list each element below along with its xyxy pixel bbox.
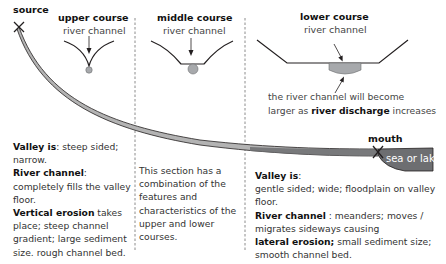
upper-channel-label: river channel <box>63 25 126 36</box>
lower-channel-term: River channel <box>255 210 326 221</box>
upper-course-description: Valley is: steep sided; narrow. River ch… <box>13 140 135 259</box>
lower-discharge-note: the river channel will become larger as … <box>268 90 436 117</box>
upper-erosion-term: Vertical erosion <box>13 207 94 218</box>
lower-valley-cross-section <box>257 40 408 63</box>
middle-channel-icon <box>188 64 198 74</box>
lower-channel-icon <box>329 63 361 74</box>
lower-course-description: Valley is: gentle sided; wide; floodplai… <box>255 169 445 261</box>
lower-note-pre: larger as <box>268 105 311 116</box>
middle-course-title: middle course <box>157 12 232 23</box>
lower-valley-colon: : <box>298 170 301 181</box>
middle-channel-label: river channel <box>163 25 226 36</box>
mouth-label: mouth <box>368 133 403 144</box>
lower-note-post: increases <box>390 105 436 116</box>
sea-or-lake-label: sea or lake <box>386 153 441 164</box>
upper-channel-icon <box>86 67 92 73</box>
lower-erosion-term: lateral erosion; <box>255 236 334 247</box>
upper-channel-term: River channel <box>13 167 84 178</box>
middle-course-description: This section has a combination of the fe… <box>139 164 244 243</box>
lower-course-title: lower course <box>300 11 369 22</box>
lower-arrow-top-icon <box>334 44 343 62</box>
upper-valley-term: Valley is <box>13 141 56 152</box>
source-label: source <box>13 4 49 15</box>
lower-note-line2: larger as river discharge increases <box>268 104 436 118</box>
upper-arrow-icon <box>87 36 92 54</box>
middle-arrow-icon <box>189 38 194 56</box>
upper-course-title: upper course <box>58 12 129 23</box>
river-discharge-term: river discharge <box>311 105 389 116</box>
lower-valley-text: gentle sided; wide; floodplain on valley… <box>255 183 435 207</box>
lower-valley-term: Valley is <box>255 170 298 181</box>
lower-channel-label: river channel <box>304 24 367 35</box>
lower-note-line1: the river channel will become <box>268 90 436 104</box>
